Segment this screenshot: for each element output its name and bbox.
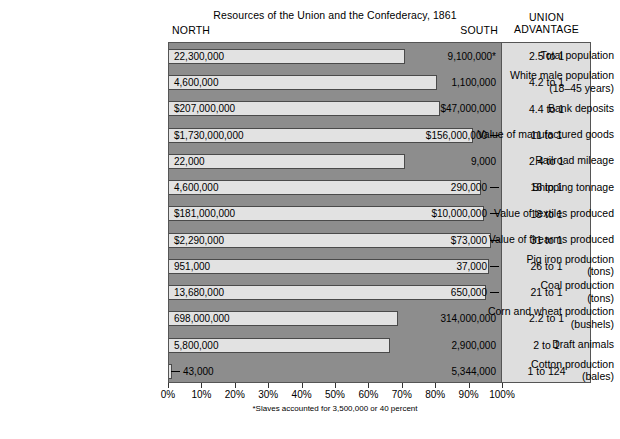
plot-area: 22,300,0009,100,000*4,600,0001,100,000$2…: [168, 42, 502, 383]
chart-title: Resources of the Union and the Confedera…: [168, 9, 502, 21]
row-label-line: Value of firearms produced: [462, 233, 614, 246]
row-label-line: Value of textiles produced: [462, 207, 614, 220]
north-value-label: 698,000,000: [174, 312, 230, 325]
row-label-line: Total population: [462, 49, 614, 62]
chart-footnote: *Slaves accounted for 3,500,000 or 40 pe…: [168, 404, 502, 414]
column-header-union-advantage: UNION ADVANTAGE: [502, 11, 591, 35]
north-value-label: 4,600,000: [174, 76, 219, 89]
row-label-line: White male population: [462, 69, 614, 82]
row-label: Shipping tonnage: [462, 181, 620, 194]
chart-row: $181,000,000$10,000,000: [169, 200, 501, 226]
row-label: Coal production(tons): [462, 279, 620, 304]
north-leader-tick: [171, 371, 180, 372]
row-label: Corn and wheat production(bushels): [462, 305, 620, 330]
chart-row: $2,290,000$73,000: [169, 227, 501, 253]
chart-row: 4,600,0001,100,000: [169, 69, 501, 95]
north-value-label: $181,000,000: [174, 207, 235, 220]
x-axis-tick: [168, 383, 169, 388]
x-axis-tick: [268, 383, 269, 388]
column-header-north: NORTH: [172, 24, 210, 36]
row-label-line: Corn and wheat production: [462, 305, 614, 318]
x-axis-tick: [402, 383, 403, 388]
row-label-line: Railroad mileage: [462, 154, 614, 167]
north-value-label: 22,000: [174, 155, 205, 168]
row-label-line: (18–45 years): [462, 82, 614, 95]
row-label-line: Pig iron production: [462, 253, 614, 266]
north-value-label: 13,680,000: [174, 286, 224, 299]
row-label: Pig iron production(tons): [462, 253, 620, 278]
north-value-label: 22,300,000: [174, 50, 224, 63]
row-label: Total population: [462, 49, 620, 62]
chart-row: 13,680,000650,000: [169, 279, 501, 305]
chart-row: 5,800,0002,900,000: [169, 332, 501, 358]
row-label: White male population(18–45 years): [462, 69, 620, 94]
chart-row: 698,000,000314,000,000: [169, 305, 501, 331]
x-axis-tick: [335, 383, 336, 388]
row-label: Railroad mileage: [462, 154, 620, 167]
row-label: Cotton production(bales): [462, 358, 620, 383]
row-label-line: Shipping tonnage: [462, 181, 614, 194]
row-label-line: (bales): [462, 370, 614, 383]
row-label-line: (bushels): [462, 318, 614, 331]
row-label-line: Bank deposits: [462, 102, 614, 115]
x-axis-tick: [201, 383, 202, 388]
row-label-line: Cotton production: [462, 358, 614, 371]
north-value-label: 951,000: [174, 260, 210, 273]
union-advantage-header-line1: UNION: [502, 11, 591, 23]
chart-row: $207,000,000$47,000,000: [169, 95, 501, 121]
north-value-label: $207,000,000: [174, 102, 235, 115]
x-axis-tick: [235, 383, 236, 388]
chart-row: 43,0005,344,000: [169, 358, 501, 383]
row-label-line: (tons): [462, 292, 614, 305]
row-label: Draft animals: [462, 338, 620, 351]
union-advantage-header-line2: ADVANTAGE: [502, 23, 591, 35]
row-label: Value of manufactured goods: [462, 128, 620, 141]
row-label-line: Draft animals: [462, 338, 614, 351]
row-label: Value of firearms produced: [462, 233, 620, 246]
row-label-line: Coal production: [462, 279, 614, 292]
x-axis-tick: [368, 383, 369, 388]
chart-row: $1,730,000,000$156,000,000: [169, 122, 501, 148]
north-value-label: 4,600,000: [174, 181, 219, 194]
chart-row: 4,600,000290,000: [169, 174, 501, 200]
chart-row: 22,300,0009,100,000*: [169, 43, 501, 69]
north-value-label: 43,000: [183, 365, 214, 378]
x-axis-tick: [435, 383, 436, 388]
x-axis-tick: [502, 383, 503, 388]
row-label-line: (tons): [462, 265, 614, 278]
row-label: Bank deposits: [462, 102, 620, 115]
x-axis-tick: [469, 383, 470, 388]
bar-north: [169, 259, 489, 274]
x-axis-tick-label: 100%: [482, 389, 522, 401]
north-value-label: 5,800,000: [174, 339, 219, 352]
chart-row: 22,0009,000: [169, 148, 501, 174]
x-axis-tick: [302, 383, 303, 388]
row-label: Value of textiles produced: [462, 207, 620, 220]
row-label-line: Value of manufactured goods: [462, 128, 614, 141]
chart-figure: Resources of the Union and the Confedera…: [0, 0, 620, 439]
north-value-label: $2,290,000: [174, 234, 224, 247]
column-header-south: SOUTH: [380, 24, 498, 36]
chart-row: 951,00037,000: [169, 253, 501, 279]
north-value-label: $1,730,000,000: [174, 129, 244, 142]
